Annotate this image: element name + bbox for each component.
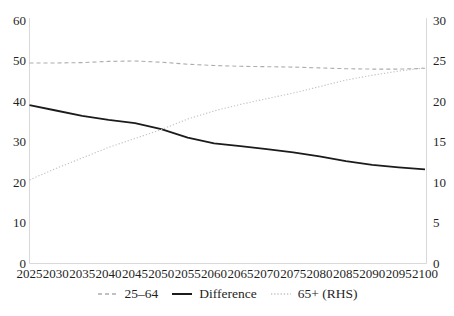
y-axis-label-right: 30	[433, 13, 446, 28]
legend-item-25-64: 25–64	[97, 286, 159, 302]
y-axis-label-left: 20	[13, 175, 26, 190]
y-axis-label-right: 5	[433, 215, 440, 230]
legend-label: 65+ (RHS)	[298, 286, 358, 302]
x-axis-label: 2040	[96, 266, 122, 281]
axis-spines	[30, 18, 427, 264]
x-axis-label: 2075	[280, 266, 306, 281]
legend-swatch-dashed-line	[97, 290, 119, 298]
chart-legend: 25–64Difference65+ (RHS)	[0, 284, 454, 304]
x-axis-label: 2025	[17, 266, 43, 281]
y-axis-label-left: 10	[13, 215, 26, 230]
legend-label: Difference	[199, 286, 256, 302]
y-axis-label-right: 20	[433, 94, 446, 109]
y-axis-label-left: 30	[13, 134, 26, 149]
line-chart: 0102030405060051015202530202520302035204…	[0, 0, 454, 316]
x-axis-label: 2095	[386, 266, 412, 281]
legend-item-65-rhs: 65+ (RHS)	[270, 286, 358, 302]
series-line-25-64	[30, 61, 426, 69]
legend-swatch-dotted-line	[270, 290, 292, 298]
x-axis-label: 2050	[148, 266, 174, 281]
y-axis-label-left: 60	[13, 13, 26, 28]
chart-svg: 0102030405060051015202530202520302035204…	[0, 0, 454, 283]
x-axis-label: 2085	[333, 266, 359, 281]
x-axis-label: 2065	[227, 266, 253, 281]
y-axis-label-right: 15	[433, 134, 446, 149]
x-axis-label: 2030	[43, 266, 69, 281]
x-axis-label: 2035	[69, 266, 95, 281]
x-axis-label: 2100	[412, 266, 438, 281]
legend-swatch-solid-line	[171, 290, 193, 298]
legend-label: 25–64	[125, 286, 159, 302]
x-axis-label: 2090	[359, 266, 385, 281]
x-axis-label: 2060	[201, 266, 227, 281]
y-axis-label-right: 10	[433, 175, 446, 190]
x-axis-label: 2045	[122, 266, 148, 281]
x-axis-label: 2070	[254, 266, 280, 281]
series-line-difference	[30, 105, 426, 169]
y-axis-label-right: 25	[433, 53, 446, 68]
y-axis-label-left: 50	[13, 53, 26, 68]
legend-item-difference: Difference	[171, 286, 256, 302]
x-axis-label: 2055	[175, 266, 201, 281]
y-axis-label-left: 40	[13, 94, 26, 109]
x-axis-label: 2080	[307, 266, 333, 281]
